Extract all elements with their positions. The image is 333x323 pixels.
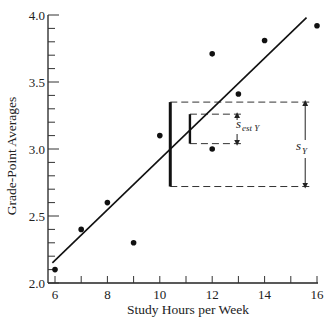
y-tick-label: 3.0 bbox=[29, 142, 45, 157]
data-point bbox=[209, 51, 215, 57]
x-axis-title: Study Hours per Week bbox=[127, 302, 249, 317]
data-point bbox=[236, 91, 242, 97]
data-points bbox=[52, 23, 320, 272]
data-point bbox=[209, 146, 215, 152]
svg-text:sY: sY bbox=[296, 138, 308, 156]
y-tick-label: 2.0 bbox=[29, 276, 45, 291]
x-tick-label: 14 bbox=[258, 287, 272, 302]
regression-line bbox=[52, 18, 306, 263]
x-tick-label: 8 bbox=[104, 287, 111, 302]
axes bbox=[48, 15, 318, 283]
s-est-y-label: sest Y bbox=[236, 116, 260, 133]
y-tick-label: 2.5 bbox=[29, 209, 45, 224]
x-tick-label: 10 bbox=[153, 287, 166, 302]
x-tick-label: 12 bbox=[206, 287, 219, 302]
data-point bbox=[105, 200, 111, 206]
regression-line-path bbox=[52, 18, 306, 263]
data-point bbox=[262, 38, 268, 44]
y-axis-title: Grade-Point Averages bbox=[4, 97, 19, 216]
data-point bbox=[78, 227, 84, 233]
axis-ticks bbox=[48, 15, 317, 283]
data-point bbox=[157, 133, 163, 139]
y-tick-label: 4.0 bbox=[29, 8, 45, 23]
x-tick-label: 16 bbox=[311, 287, 325, 302]
y-tick-label: 3.5 bbox=[29, 75, 45, 90]
x-tick-label: 6 bbox=[52, 287, 59, 302]
data-point bbox=[52, 267, 58, 273]
svg-text:sest Y: sest Y bbox=[236, 116, 260, 133]
tick-labels: 2.02.53.03.54.06810121416 bbox=[29, 8, 324, 303]
s-y-label: sY bbox=[296, 138, 308, 156]
scatter-chart: 2.02.53.03.54.06810121416 Study Hours pe… bbox=[0, 0, 333, 323]
sd-annotations bbox=[170, 102, 313, 186]
data-point bbox=[131, 240, 137, 246]
data-point bbox=[314, 23, 320, 29]
